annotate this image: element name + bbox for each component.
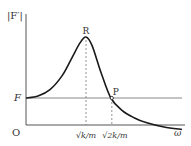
point-P-label: P — [113, 87, 119, 97]
resonance-chart: |F′| F O ω √k/m √2k/m R P — [0, 0, 191, 146]
x-tick-label-2: √2k/m — [102, 131, 128, 140]
origin-label: O — [12, 127, 20, 138]
reference-label-F: F — [13, 92, 22, 103]
x-axis-label: ω — [174, 128, 182, 138]
response-curve — [26, 37, 182, 130]
y-axis-label: |F′| — [7, 10, 23, 22]
point-R-label: R — [83, 26, 90, 36]
x-tick-label-1: √k/m — [76, 131, 97, 140]
